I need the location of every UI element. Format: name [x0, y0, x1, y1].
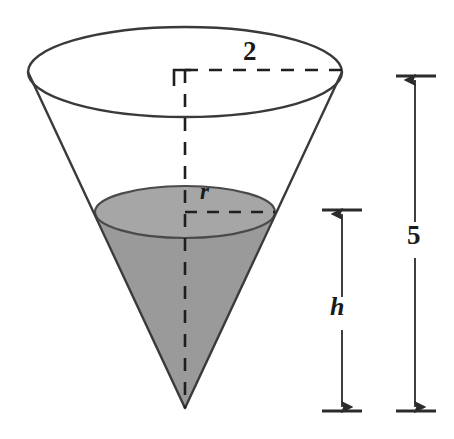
label-liquid-radius: r: [200, 180, 209, 203]
label-liquid-height: h: [330, 294, 344, 320]
cone-diagram-canvas: [0, 0, 454, 439]
label-top-radius: 2: [243, 38, 257, 65]
right-angle-mark: [174, 70, 191, 86]
cone-diagram: 2 r h 5: [0, 0, 454, 439]
label-cone-height: 5: [407, 222, 421, 249]
